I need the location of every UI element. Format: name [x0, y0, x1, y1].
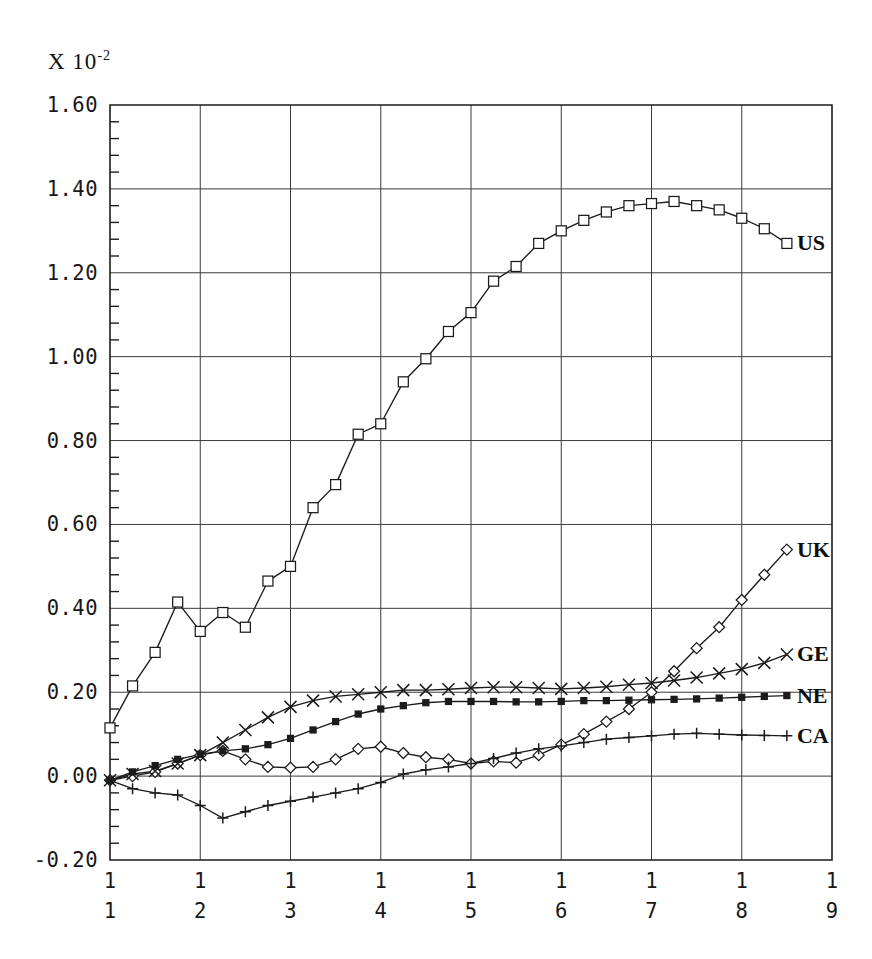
vertical-gridlines [200, 105, 742, 860]
series-marker-ca [578, 737, 589, 748]
series-marker-us [511, 261, 521, 271]
series-label-ge: GE [797, 641, 829, 666]
series-marker-uk [240, 754, 251, 765]
series-marker-ne [400, 703, 406, 709]
series-marker-ne [445, 698, 451, 704]
series-marker-us [150, 647, 160, 657]
series-marker-us [286, 561, 296, 571]
series-marker-us [647, 199, 657, 209]
series-marker-us [737, 213, 747, 223]
series-marker-ne [716, 695, 722, 701]
series-marker-us [714, 205, 724, 215]
series-marker-ge [307, 695, 319, 707]
series-marker-ne [558, 698, 564, 704]
series-marker-us [263, 576, 273, 586]
series-marker-ne [220, 748, 226, 754]
series-marker-us [601, 207, 611, 217]
x-axis-tick-label-top: 1 [555, 869, 567, 893]
series-marker-us [556, 226, 566, 236]
series-marker-ne [694, 696, 700, 702]
x-axis-tick-label-top: 1 [375, 869, 387, 893]
series-marker-us [308, 503, 318, 513]
series-marker-ne [784, 693, 790, 699]
y-axis-tick-label: 1.20 [47, 261, 98, 285]
series-marker-ca [466, 758, 477, 769]
series-marker-us [534, 238, 544, 248]
series-marker-ca [511, 748, 522, 759]
series-marker-us [489, 276, 499, 286]
series-marker-uk [623, 704, 634, 715]
series-marker-ca [172, 789, 183, 800]
series-marker-ne [536, 699, 542, 705]
series-marker-ge [781, 648, 793, 660]
series-marker-us [376, 419, 386, 429]
series-marker-ne [761, 693, 767, 699]
series-marker-us [173, 597, 183, 607]
line-chart-plot: USUKGENECA 1.601.401.201.000.800.600.400… [0, 0, 872, 959]
series-marker-us [624, 201, 634, 211]
series-marker-ne [333, 719, 339, 725]
y-axis-tick-label: -0.20 [34, 848, 98, 872]
series-marker-ca [195, 800, 206, 811]
series-marker-ne [739, 694, 745, 700]
series-marker-ge [758, 657, 770, 669]
series-marker-ca [714, 729, 725, 740]
x-axis-tick-label-bottom: 9 [826, 899, 838, 923]
x-axis-tick-label-bottom: 5 [465, 899, 477, 923]
series-label-us: US [797, 230, 825, 255]
series-marker-ne [310, 727, 316, 733]
series-marker-ne [355, 711, 361, 717]
series-marker-ne [603, 698, 609, 704]
series-marker-uk [375, 741, 386, 752]
series-marker-ne [423, 700, 429, 706]
series-marker-us [579, 215, 589, 225]
series-end-labels-group: USUKGENECA [797, 230, 830, 747]
y-axis-unit-label: X 10-2 [48, 48, 111, 75]
series-label-uk: UK [797, 537, 830, 562]
x-axis-tick-label-top: 1 [826, 869, 838, 893]
y-axis-tick-label: 0.80 [47, 429, 98, 453]
series-marker-ne [175, 756, 181, 762]
series-marker-ne [626, 697, 632, 703]
y-axis-tick-label: 1.00 [47, 345, 98, 369]
chart-figure: X 10-2 USUKGENECA 1.601.401.201.000.800.… [0, 0, 872, 959]
series-line-us [110, 201, 787, 727]
series-marker-us [443, 327, 453, 337]
y-axis-minor-ticks [110, 122, 119, 843]
series-marker-ne [152, 763, 158, 769]
series-marker-uk [308, 761, 319, 772]
x-axis-tick-label-bottom: 6 [555, 899, 567, 923]
series-marker-us [669, 196, 679, 206]
series-marker-ca [330, 787, 341, 798]
series-marker-ne [581, 698, 587, 704]
series-marker-ca [623, 732, 634, 743]
series-marker-uk [285, 762, 296, 773]
series-marker-ne [242, 746, 248, 752]
y-axis-tick-label: 0.60 [47, 512, 98, 536]
series-marker-ca [262, 800, 273, 811]
series-marker-ne [671, 696, 677, 702]
series-marker-us [759, 224, 769, 234]
x-axis-tick-label-top: 1 [465, 869, 477, 893]
series-marker-ca [601, 734, 612, 745]
series-marker-uk [353, 743, 364, 754]
series-marker-ge [262, 711, 274, 723]
series-marker-ne [468, 698, 474, 704]
series-line-uk [110, 550, 787, 781]
y-axis-unit-prefix: X 10 [48, 49, 97, 74]
series-marker-us [353, 429, 363, 439]
series-marker-ca [217, 813, 228, 824]
series-marker-ca [420, 764, 431, 775]
series-marker-us [128, 681, 138, 691]
x-axis-tick-label-bottom: 3 [284, 899, 296, 923]
series-marker-ca [691, 728, 702, 739]
series-marker-us [218, 608, 228, 618]
series-marker-us [692, 201, 702, 211]
x-axis-tick-label-top: 1 [736, 869, 748, 893]
series-marker-ca [285, 796, 296, 807]
series-marker-ca [443, 761, 454, 772]
series-marker-us [240, 622, 250, 632]
series-marker-ca [736, 730, 747, 741]
series-marker-us [782, 238, 792, 248]
series-marker-us [466, 308, 476, 318]
